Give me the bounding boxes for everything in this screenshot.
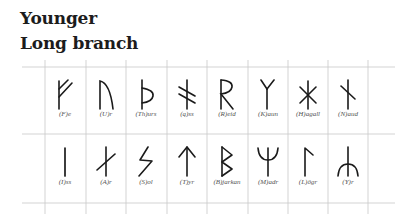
- rune-label: (H)agall: [286, 110, 330, 118]
- rune-sol-icon: [126, 146, 166, 178]
- rune-label: (F)e: [43, 110, 87, 118]
- rune-cell-fe: (F)e: [45, 67, 85, 134]
- rune-cell-sol: (S)ol: [126, 134, 166, 203]
- rune-cell-kaun: (K)aun: [248, 67, 288, 134]
- rune-iss-icon: [45, 146, 85, 178]
- rune-cell-reid: (R)eid: [207, 67, 247, 134]
- rune-label: (A)r: [84, 178, 128, 186]
- rune-label: (T)yr: [165, 178, 209, 186]
- rune-cell-iss: (I)ss: [45, 134, 85, 203]
- rune-hagall-icon: [288, 79, 328, 111]
- rune-label: (K)aun: [246, 110, 290, 118]
- rune-label: (Th)urs: [124, 110, 168, 118]
- rune-label: (S)ol: [124, 178, 168, 186]
- rune-cell-bjarkan: (B)jarkan: [207, 134, 247, 203]
- rune-label: (B)jarkan: [205, 178, 249, 186]
- rune-label: (I)ss: [43, 178, 87, 186]
- rune-cell-madr: (M)adr: [248, 134, 288, 203]
- rune-logr-icon: [288, 146, 328, 178]
- rune-thurs-icon: [126, 79, 166, 111]
- rune-cell-hagall: (H)agall: [288, 67, 328, 134]
- rune-kaun-icon: [248, 79, 288, 111]
- rune-naud-icon: [328, 79, 368, 111]
- rune-cell-ur: (U)r: [86, 67, 126, 134]
- rune-cell-yr: (Y)r: [328, 134, 368, 203]
- rune-label: (L)ögr: [286, 178, 330, 186]
- rune-bjarkan-icon: [207, 146, 247, 178]
- rune-tyr-icon: [167, 146, 207, 178]
- rune-cell-thurs: (Th)urs: [126, 67, 166, 134]
- rune-reid-icon: [207, 79, 247, 111]
- rune-cell-ar: (A)r: [86, 134, 126, 203]
- rune-cell-logr: (L)ögr: [288, 134, 328, 203]
- rune-cell-naud: (N)aud: [328, 67, 368, 134]
- rune-ur-icon: [86, 79, 126, 111]
- rune-ar-icon: [86, 146, 126, 178]
- rune-yr-icon: [328, 146, 368, 178]
- rune-label: (N)aud: [326, 110, 370, 118]
- rune-cell-tyr: (T)yr: [167, 134, 207, 203]
- rune-label: (U)r: [84, 110, 128, 118]
- rune-ass-icon: [167, 79, 207, 111]
- rune-label: (M)adr: [246, 178, 290, 186]
- rune-cell-ass: (ą)ss: [167, 67, 207, 134]
- rune-label: (Y)r: [326, 178, 370, 186]
- rune-label: (R)eid: [205, 110, 249, 118]
- rune-madr-icon: [248, 146, 288, 178]
- rune-label: (ą)ss: [165, 110, 209, 118]
- rune-fe-icon: [45, 79, 85, 111]
